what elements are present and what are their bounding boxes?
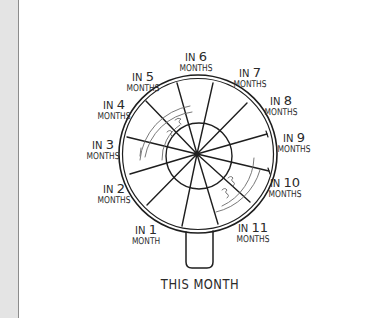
segment-label-6: IN 6 MONTHS [180, 50, 213, 72]
segment-label-11: IN 11 MONTHS [237, 221, 270, 243]
segment-label-2: IN 2 MONTHS [98, 182, 131, 204]
segment-label-9: IN 9 MONTHS [278, 131, 311, 153]
handle [186, 231, 213, 268]
handle-label: THIS MONTH [161, 275, 239, 293]
wheel-diagram [0, 0, 369, 318]
segment-label-1: IN 1 MONTH [132, 223, 160, 245]
segment-label-7: IN 7 MONTHS [234, 66, 267, 88]
hub [195, 152, 200, 157]
segment-label-8: IN 8 MONTHS [265, 94, 298, 116]
segment-label-4: IN 4 MONTHS [98, 98, 131, 120]
segment-label-10: IN 10 MONTHS [269, 176, 302, 198]
segment-label-3: IN 3 MONTHS [87, 138, 120, 160]
segment-label-5: IN 5 MONTHS [127, 70, 160, 92]
